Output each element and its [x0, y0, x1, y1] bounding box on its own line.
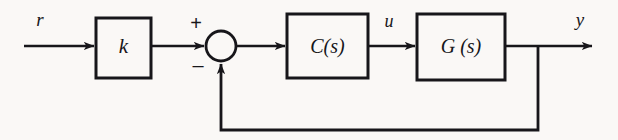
signal-label-control: u — [385, 11, 394, 31]
summing-junction-plus-sign: + — [190, 12, 202, 34]
block-plant-label: G (s) — [441, 35, 482, 58]
block-diagram-canvas: k + – C(s) G (s) r u y — [0, 0, 618, 140]
block-diagram-svg: k + – C(s) G (s) r u y — [0, 0, 618, 140]
summing-junction-minus-sign: – — [192, 54, 204, 76]
signal-label-reference: r — [36, 9, 44, 30]
signal-label-output: y — [574, 9, 585, 30]
block-gain-label: k — [119, 34, 129, 58]
block-controller-label: C(s) — [310, 35, 345, 58]
summing-junction[interactable] — [206, 31, 236, 61]
